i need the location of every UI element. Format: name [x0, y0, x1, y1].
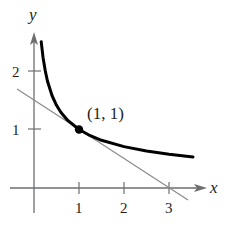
point-marker — [75, 125, 83, 133]
y-tick-label-1: 1 — [12, 122, 20, 138]
y-tick-label-2: 2 — [12, 64, 20, 80]
x-tick-label-3: 3 — [165, 200, 173, 216]
y-axis-label: y — [27, 5, 37, 24]
curve-path — [41, 42, 193, 157]
x-tick-label-2: 2 — [120, 200, 128, 216]
x-tick-label-1: 1 — [75, 200, 83, 216]
chart: (1, 1) x y 1 2 3 1 2 — [0, 0, 227, 230]
point-label: (1, 1) — [87, 104, 124, 123]
x-axis-label: x — [209, 178, 218, 197]
